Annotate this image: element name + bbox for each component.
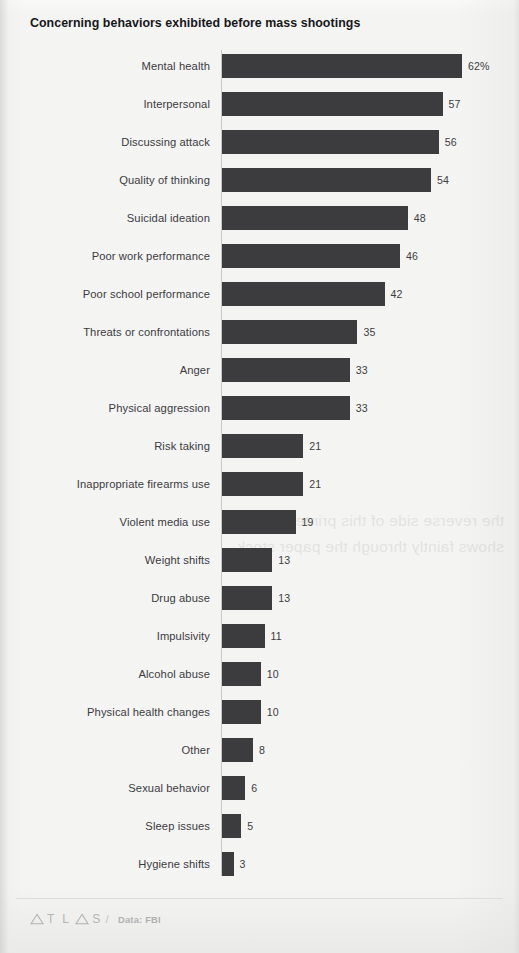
bar-value-label: 42 bbox=[391, 282, 403, 306]
bar-value-label: 5 bbox=[247, 814, 253, 838]
bar-category-label: Violent media use bbox=[0, 510, 210, 534]
bar-value-label: 46 bbox=[406, 244, 418, 268]
bar bbox=[222, 662, 261, 686]
bar-category-label: Other bbox=[0, 738, 210, 762]
bar-category-label: Hygiene shifts bbox=[0, 852, 210, 876]
bar-value-label: 48 bbox=[414, 206, 426, 230]
bar-category-label: Discussing attack bbox=[0, 130, 210, 154]
bar-category-label: Sleep issues bbox=[0, 814, 210, 838]
bar-value-label: 11 bbox=[271, 624, 282, 648]
bar bbox=[222, 434, 303, 458]
bar-category-label: Poor school performance bbox=[0, 282, 210, 306]
bar-value-label: 6 bbox=[251, 776, 257, 800]
bar-row: Interpersonal57 bbox=[0, 92, 519, 116]
triangle-a-icon bbox=[75, 913, 89, 925]
atlas-logo: T L S / bbox=[30, 912, 112, 926]
bar-value-label: 10 bbox=[267, 662, 279, 686]
bar-value-label: 54 bbox=[437, 168, 449, 192]
bar-category-label: Alcohol abuse bbox=[0, 662, 210, 686]
bar-category-label: Interpersonal bbox=[0, 92, 210, 116]
bar bbox=[222, 776, 245, 800]
bar-row: Sleep issues5 bbox=[0, 814, 519, 838]
bar-row: Risk taking21 bbox=[0, 434, 519, 458]
bar-row: Drug abuse13 bbox=[0, 586, 519, 610]
bar-value-label: 19 bbox=[302, 510, 314, 534]
bar-value-label: 21 bbox=[309, 472, 321, 496]
bar-row: Violent media use19 bbox=[0, 510, 519, 534]
bar-row: Physical aggression33 bbox=[0, 396, 519, 420]
bar-row: Poor school performance42 bbox=[0, 282, 519, 306]
bar-row: Impulsivity11 bbox=[0, 624, 519, 648]
bar-category-label: Poor work performance bbox=[0, 244, 210, 268]
bar-value-label: 13 bbox=[278, 548, 290, 572]
bar-row: Weight shifts13 bbox=[0, 548, 519, 572]
bar bbox=[222, 282, 385, 306]
bar-category-label: Mental health bbox=[0, 54, 210, 78]
bar-value-label: 57 bbox=[449, 92, 461, 116]
bar-category-label: Quality of thinking bbox=[0, 168, 210, 192]
bar-category-label: Risk taking bbox=[0, 434, 210, 458]
bar bbox=[222, 206, 408, 230]
bar-value-label: 13 bbox=[278, 586, 290, 610]
bar-row: Threats or confrontations35 bbox=[0, 320, 519, 344]
bar-row: Alcohol abuse10 bbox=[0, 662, 519, 686]
bar bbox=[222, 92, 443, 116]
bar-row: Physical health changes10 bbox=[0, 700, 519, 724]
bar-row: Quality of thinking54 bbox=[0, 168, 519, 192]
bar-value-label: 21 bbox=[309, 434, 321, 458]
bar bbox=[222, 510, 296, 534]
bar-value-label: 3 bbox=[240, 852, 246, 876]
triangle-a-icon bbox=[30, 913, 44, 925]
bar-category-label: Threats or confrontations bbox=[0, 320, 210, 344]
bar bbox=[222, 586, 272, 610]
bar-row: Anger33 bbox=[0, 358, 519, 382]
bar-row: Sexual behavior6 bbox=[0, 776, 519, 800]
bar-category-label: Anger bbox=[0, 358, 210, 382]
bar-category-label: Drug abuse bbox=[0, 586, 210, 610]
bar bbox=[222, 624, 265, 648]
footer-source: Data: FBI bbox=[118, 914, 161, 925]
bar-row: Mental health62% bbox=[0, 54, 519, 78]
bar-chart: Concerning behaviors exhibited before ma… bbox=[0, 0, 519, 953]
bar-row: Poor work performance46 bbox=[0, 244, 519, 268]
bar-category-label: Physical health changes bbox=[0, 700, 210, 724]
bar bbox=[222, 814, 241, 838]
footer-divider bbox=[16, 898, 503, 899]
bar-value-label: 10 bbox=[267, 700, 279, 724]
bar-row: Other8 bbox=[0, 738, 519, 762]
bar-row: Inappropriate firearms use21 bbox=[0, 472, 519, 496]
bar-category-label: Inappropriate firearms use bbox=[0, 472, 210, 496]
bar-category-label: Impulsivity bbox=[0, 624, 210, 648]
bar-value-label: 33 bbox=[356, 358, 368, 382]
bar-value-label: 62% bbox=[468, 54, 490, 78]
bar-category-label: Suicidal ideation bbox=[0, 206, 210, 230]
bar-value-label: 33 bbox=[356, 396, 368, 420]
bar bbox=[222, 738, 253, 762]
bar-category-label: Physical aggression bbox=[0, 396, 210, 420]
chart-footer: T L S / Data: FBI bbox=[30, 912, 161, 926]
bar bbox=[222, 852, 234, 876]
bar bbox=[222, 358, 350, 382]
bar bbox=[222, 320, 357, 344]
bar-row: Suicidal ideation48 bbox=[0, 206, 519, 230]
bar bbox=[222, 130, 439, 154]
bar-category-label: Weight shifts bbox=[0, 548, 210, 572]
bar bbox=[222, 396, 350, 420]
bar-row: Hygiene shifts3 bbox=[0, 852, 519, 876]
chart-page: the reverse side of this printed page sh… bbox=[0, 0, 519, 953]
bar bbox=[222, 54, 462, 78]
bar bbox=[222, 472, 303, 496]
bar-value-label: 56 bbox=[445, 130, 457, 154]
bar bbox=[222, 700, 261, 724]
bar-row: Discussing attack56 bbox=[0, 130, 519, 154]
bar-category-label: Sexual behavior bbox=[0, 776, 210, 800]
footer-separator: / bbox=[106, 914, 111, 925]
bar-value-label: 8 bbox=[259, 738, 265, 762]
bar bbox=[222, 168, 431, 192]
chart-title: Concerning behaviors exhibited before ma… bbox=[30, 16, 360, 30]
bar-value-label: 35 bbox=[363, 320, 375, 344]
bar bbox=[222, 548, 272, 572]
bar bbox=[222, 244, 400, 268]
